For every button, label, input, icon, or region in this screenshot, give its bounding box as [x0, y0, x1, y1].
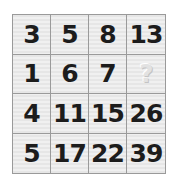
cell-r4-c2: 17 [51, 134, 89, 174]
cell-r3-c3: 15 [89, 94, 127, 134]
cell-r2-c3: 7 [89, 55, 127, 95]
number-puzzle-grid: 3 5 8 13 1 6 7 ? 4 11 15 26 5 17 22 39 [12, 14, 166, 174]
cell-r1-c4: 13 [127, 15, 165, 55]
unknown-cell-question-mark: ? [127, 55, 165, 95]
cell-r1-c1: 3 [13, 15, 51, 55]
cell-r4-c1: 5 [13, 134, 51, 174]
cell-r3-c2: 11 [51, 94, 89, 134]
cell-r4-c4: 39 [127, 134, 165, 174]
cell-r3-c1: 4 [13, 94, 51, 134]
cell-r1-c3: 8 [89, 15, 127, 55]
cell-r2-c1: 1 [13, 55, 51, 95]
cell-r3-c4: 26 [127, 94, 165, 134]
cell-r2-c2: 6 [51, 55, 89, 95]
cell-r4-c3: 22 [89, 134, 127, 174]
cell-r1-c2: 5 [51, 15, 89, 55]
